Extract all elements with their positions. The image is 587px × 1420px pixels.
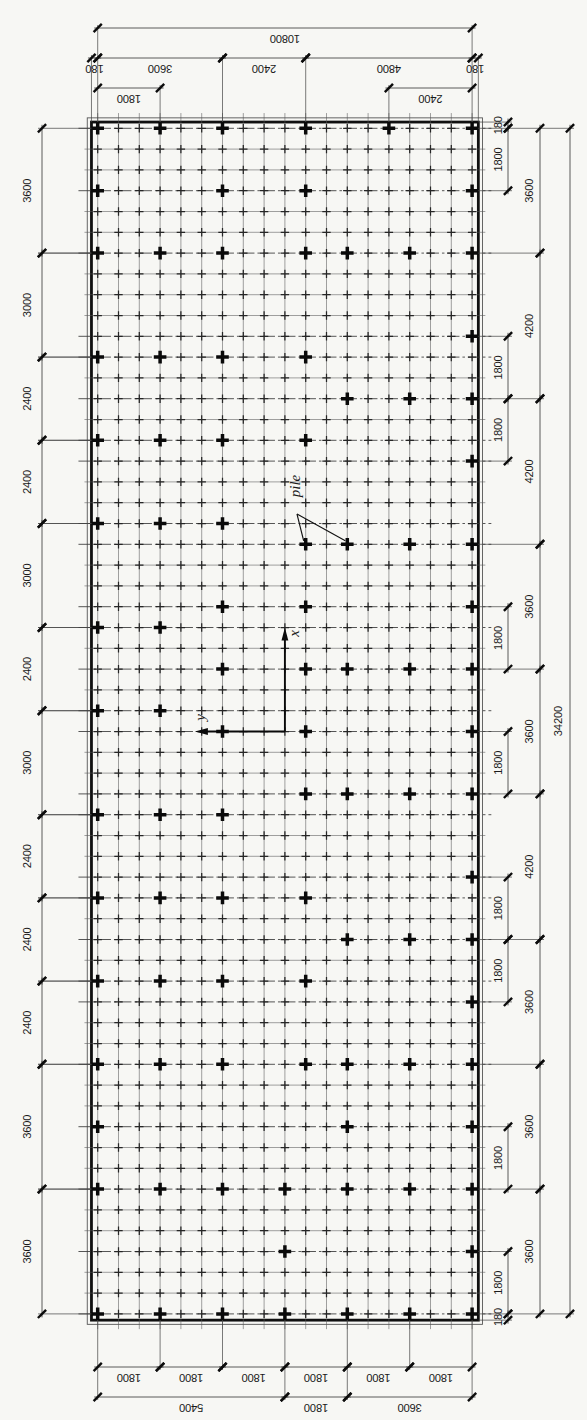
dim-label: 4200 xyxy=(523,314,535,338)
dim-label: 1800 xyxy=(304,1372,328,1384)
dim-label: 3600 xyxy=(21,1239,33,1263)
dim-label: 2400 xyxy=(252,63,276,75)
dim-label: 180 xyxy=(492,1308,504,1326)
dim-label: 2400 xyxy=(21,844,33,868)
dim-label: 3000 xyxy=(21,563,33,587)
dim-label: 3600 xyxy=(523,719,535,743)
dim-label: 3000 xyxy=(21,751,33,775)
dim-label: 180 xyxy=(492,116,504,134)
dim-label: 2400 xyxy=(418,93,442,105)
dim-label: 1800 xyxy=(117,93,141,105)
dim-label: 1800 xyxy=(492,751,504,775)
dim-label: 3600 xyxy=(21,179,33,203)
dim-label: 3000 xyxy=(21,293,33,317)
dim-label: 1800 xyxy=(492,147,504,171)
dim-label: 3600 xyxy=(523,1115,535,1139)
dim-label: 34200 xyxy=(552,706,564,736)
dim-label: 4800 xyxy=(377,63,401,75)
y-axis-label: y xyxy=(192,714,208,723)
dim-label: 1800 xyxy=(492,626,504,650)
dim-label: 1800 xyxy=(492,1271,504,1295)
dim-label: 1800 xyxy=(492,959,504,983)
dim-label: 1800 xyxy=(429,1372,453,1384)
dim-label: 1800 xyxy=(492,1146,504,1170)
dim-label: 3600 xyxy=(523,179,535,203)
x-axis-label: x xyxy=(286,630,302,638)
paper-background xyxy=(0,0,587,1420)
dim-label: 3600 xyxy=(523,990,535,1014)
dim-label: 1800 xyxy=(179,1372,203,1384)
dim-label: 3600 xyxy=(148,63,172,75)
dim-label: 10800 xyxy=(270,33,300,45)
dim-label: 1800 xyxy=(492,896,504,920)
dim-label: 1800 xyxy=(117,1372,141,1384)
dim-label: 180 xyxy=(466,63,484,75)
dim-label: 2400 xyxy=(21,387,33,411)
dim-label: 3600 xyxy=(398,1402,422,1414)
dim-label: 2400 xyxy=(21,657,33,681)
dim-label: 180 xyxy=(86,63,104,75)
dim-label: 4200 xyxy=(523,855,535,879)
dim-label: 1800 xyxy=(492,355,504,379)
dim-label: 1800 xyxy=(492,418,504,442)
dim-label: 4200 xyxy=(523,459,535,483)
pile-label: pile xyxy=(287,474,303,498)
dim-label: 2400 xyxy=(21,1011,33,1035)
pile-foundation-plan: 1080018036002400480018018002400180018001… xyxy=(0,0,587,1420)
dim-label: 3600 xyxy=(523,1239,535,1263)
dim-label: 1800 xyxy=(366,1372,390,1384)
dim-label: 1800 xyxy=(242,1372,266,1384)
dim-label: 3600 xyxy=(523,595,535,619)
dim-label: 2400 xyxy=(21,927,33,951)
dim-label: 2400 xyxy=(21,470,33,494)
dim-label: 3600 xyxy=(21,1115,33,1139)
dim-label: 5400 xyxy=(179,1402,203,1414)
dim-label: 1800 xyxy=(304,1402,328,1414)
drawing-canvas: 1080018036002400480018018002400180018001… xyxy=(0,0,587,1420)
